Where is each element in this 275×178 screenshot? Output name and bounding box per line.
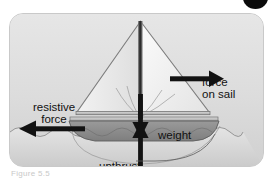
boom bbox=[76, 112, 210, 115]
resistive-force-label-line1: resistive bbox=[33, 101, 75, 113]
resistive-force-label-line2: force bbox=[41, 113, 67, 125]
figure-caption: Figure 5.5 bbox=[11, 169, 131, 178]
figure-container: resistive force force on sail weight upt… bbox=[0, 0, 275, 178]
force-on-sail-label: force on sail bbox=[202, 76, 264, 100]
force-on-sail-label-line2: on sail bbox=[202, 88, 235, 100]
upthrust-label: upthrust bbox=[99, 160, 141, 167]
deck bbox=[70, 117, 218, 121]
force-on-sail-label-line1: force bbox=[202, 76, 228, 88]
resistive-force-label: resistive force bbox=[23, 101, 85, 125]
illustration-panel: resistive force force on sail weight upt… bbox=[9, 13, 264, 167]
page-corner-dot bbox=[243, 0, 268, 9]
weight-label: weight bbox=[158, 129, 191, 141]
